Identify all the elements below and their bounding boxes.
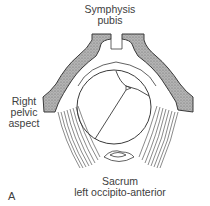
fetal-head [77, 70, 151, 144]
symphysis-pubis [111, 39, 122, 49]
coccyx-mark [104, 151, 134, 162]
label-right-pelvic-aspect: Right pelvic aspect [2, 96, 46, 129]
pelvis-diagram: Symphysis pubis Right pelvic aspect Sacr… [0, 0, 210, 206]
panel-letter: A [8, 190, 15, 202]
label-sacrum: Sacrum left occipito-anterior [60, 176, 180, 198]
label-symphysis-pubis: Symphysis pubis [70, 4, 150, 26]
